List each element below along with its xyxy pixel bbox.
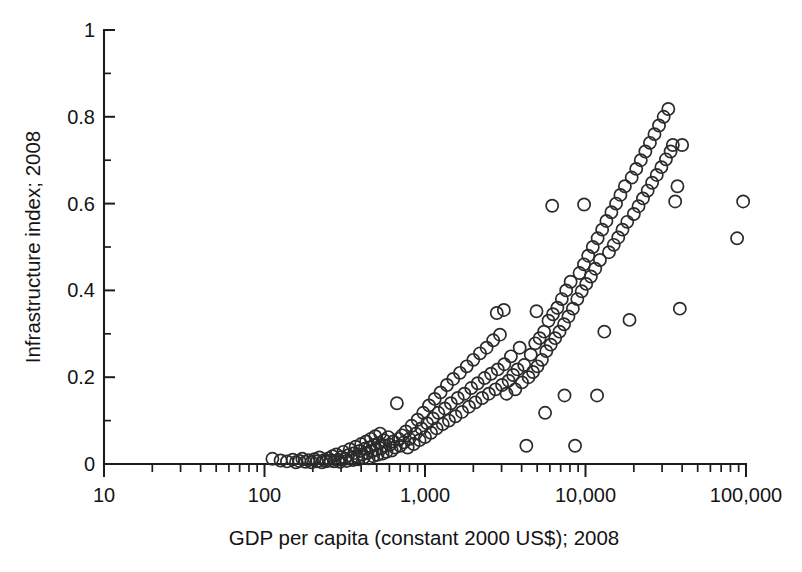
data-point [539,407,551,419]
data-point [546,200,558,212]
scatter-plot: 00.20.40.60.81101001,00010,000100,000 GD… [0,0,802,572]
y-tick-label: 0.2 [67,366,95,388]
x-tick-label: 1,000 [400,484,450,506]
x-tick-label: 10,000 [555,484,616,506]
data-point [391,397,403,409]
y-tick-label: 0 [84,453,95,475]
data-point [623,314,635,326]
y-tick-label: 0.6 [67,193,95,215]
x-axis-title: GDP per capita (constant 2000 US$); 2008 [229,526,620,549]
data-point [569,440,581,452]
data-point [558,389,570,401]
data-point [598,326,610,338]
data-point [669,195,681,207]
y-tick-label: 0.8 [67,106,95,128]
data-point [514,342,526,354]
data-point [591,389,603,401]
data-point [491,307,503,319]
y-tick-label: 0.4 [67,279,95,301]
figure-container: 00.20.40.60.81101001,00010,000100,000 GD… [0,0,802,572]
data-point [530,305,542,317]
data-point [674,303,686,315]
data-point [731,232,743,244]
data-point [676,139,688,151]
y-axis-title: Infrastructure index; 2008 [21,131,44,363]
data-point [498,304,510,316]
plot-frame [104,30,746,464]
data-point [578,198,590,210]
x-tick-label: 100,000 [710,484,782,506]
x-tick-label: 100 [248,484,281,506]
data-points [266,103,749,468]
data-point [737,195,749,207]
x-tick-label: 10 [93,484,115,506]
data-point [671,180,683,192]
y-tick-label: 1 [84,19,95,41]
data-point [520,440,532,452]
